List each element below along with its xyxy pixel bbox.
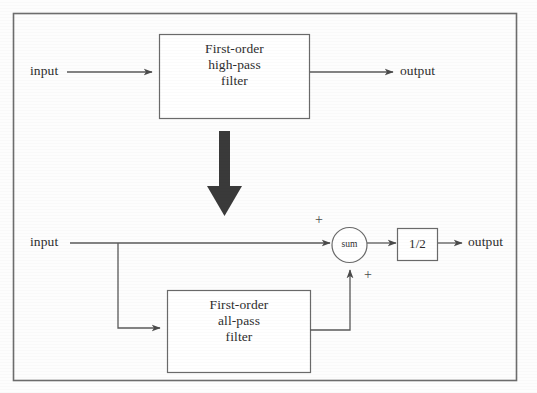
top-output-label: output xyxy=(400,63,435,79)
high-pass-filter-label: First-order high-pass filter xyxy=(160,41,309,89)
gain-label: 1/2 xyxy=(398,236,437,251)
input-branch-wire xyxy=(118,243,160,328)
high-pass-filter-line-1: First-order xyxy=(160,41,309,57)
all-pass-filter-line-3: filter xyxy=(168,329,310,345)
high-pass-filter-line-3: filter xyxy=(160,73,309,89)
all-pass-filter-label: First-order all-pass filter xyxy=(168,297,310,345)
summer-plus-sign-bottom: + xyxy=(364,267,372,284)
equivalence-arrow-icon xyxy=(207,131,242,216)
bottom-input-label: input xyxy=(30,234,58,250)
summer-label: sum xyxy=(333,239,366,250)
bottom-output-label: output xyxy=(468,234,503,250)
all-pass-filter-line-1: First-order xyxy=(168,297,310,313)
all-pass-output-wire xyxy=(310,270,350,330)
all-pass-filter-line-2: all-pass xyxy=(168,313,310,329)
summer-plus-sign-top: + xyxy=(315,212,323,229)
high-pass-filter-line-2: high-pass xyxy=(160,57,309,73)
figure-canvas: input First-order high-pass filter outpu… xyxy=(0,0,537,393)
top-input-label: input xyxy=(30,63,58,79)
